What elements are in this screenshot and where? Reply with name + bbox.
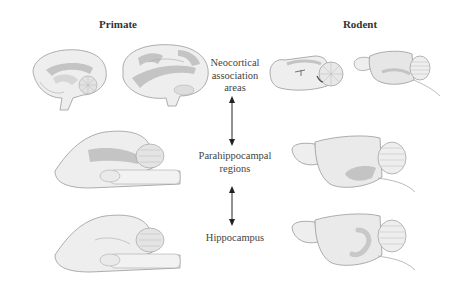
label-parahippocampal-regions: Parahippocampal regions (185, 150, 285, 175)
rodent-column-title: Rodent (330, 18, 390, 30)
primate-parahippocampal-brain-illustration (50, 126, 185, 194)
bidirectional-arrow-upper (227, 96, 237, 146)
label-hippocampus: Hippocampus (190, 232, 280, 245)
primate-medial-brain-illustration (28, 40, 113, 110)
rodent-parahippocampal-brain-illustration (290, 132, 420, 197)
primate-hippocampus-brain-illustration (50, 210, 185, 278)
rodent-hippocampus-brain-illustration (290, 210, 420, 275)
rodent-lateral-brain-illustration (352, 46, 442, 101)
bidirectional-arrow-lower (227, 186, 237, 226)
primate-column-title: Primate (88, 18, 148, 30)
rodent-medial-brain-illustration (265, 50, 345, 100)
primate-lateral-brain-illustration (118, 38, 213, 108)
